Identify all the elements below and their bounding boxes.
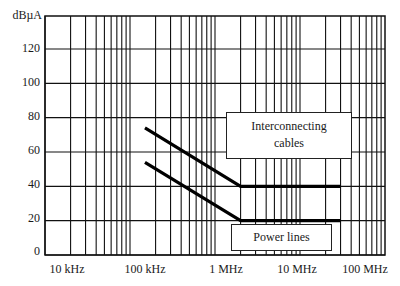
- callout-interconnecting-cables: Interconnecting cables: [226, 112, 352, 159]
- callout-power-lines: Power lines: [231, 224, 332, 251]
- y-tick-20: 20: [2, 211, 40, 226]
- callout-interconnecting-line1: Interconnecting: [227, 118, 351, 135]
- x-tick-10khz: 10 kHz: [32, 262, 102, 277]
- y-tick-0: 0: [2, 244, 40, 259]
- y-tick-60: 60: [2, 143, 40, 158]
- x-tick-1mhz: 1 MHz: [191, 262, 261, 277]
- y-tick-100: 100: [2, 75, 40, 90]
- callout-power-label: Power lines: [232, 229, 331, 246]
- callout-interconnecting-line2: cables: [227, 135, 351, 152]
- x-tick-100khz: 100 kHz: [110, 262, 180, 277]
- y-tick-80: 80: [2, 109, 40, 124]
- x-tick-10mhz: 10 MHz: [262, 262, 332, 277]
- y-tick-40: 40: [2, 177, 40, 192]
- x-tick-100mhz: 100 MHz: [330, 262, 400, 277]
- y-axis-unit-label: dBµA: [4, 8, 42, 23]
- y-tick-120: 120: [2, 41, 40, 56]
